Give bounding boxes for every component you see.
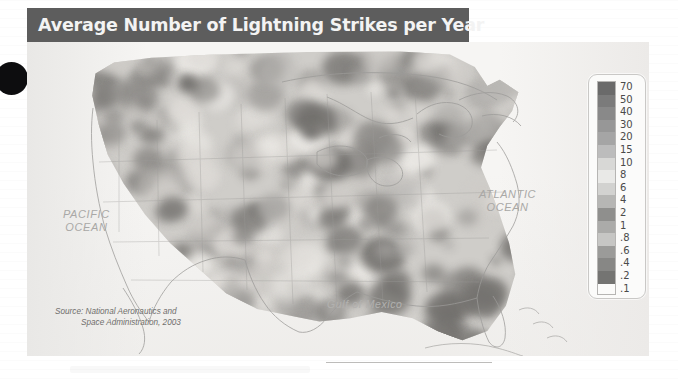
legend-tick-label: .8 <box>620 232 633 245</box>
source-line-2: Space Administration, 2003 <box>55 317 181 328</box>
legend-swatch <box>598 95 615 108</box>
pacific-label-line2: OCEAN <box>63 221 110 234</box>
legend-tick-label: .6 <box>620 245 633 258</box>
legend-swatch <box>598 183 615 196</box>
gulf-of-mexico-label: Gulf of Mexico <box>327 298 403 311</box>
legend-tick-label: 50 <box>620 94 633 107</box>
legend-color-ramp <box>597 81 616 295</box>
legend-tick-label: .4 <box>620 257 633 270</box>
legend-swatch <box>598 170 615 183</box>
legend-swatch <box>598 208 615 221</box>
source-line-1: Source: National Aeronautics and <box>55 307 177 316</box>
atlantic-label-line2: OCEAN <box>479 201 536 214</box>
legend-swatch <box>598 271 615 284</box>
legend-tick-labels: 7050403020151086421.8.6.4.2.1 <box>620 81 633 295</box>
legend-swatch <box>598 258 615 271</box>
legend-swatch <box>598 233 615 246</box>
legend-tick-label: .2 <box>620 270 633 283</box>
legend-tick-label: 20 <box>620 131 633 144</box>
legend-tick-label: 2 <box>620 207 633 220</box>
legend-swatch <box>598 107 615 120</box>
legend-swatch <box>598 246 615 259</box>
legend-swatch <box>598 120 615 133</box>
legend-tick-label: 4 <box>620 194 633 207</box>
atlantic-ocean-label: ATLANTIC OCEAN <box>479 188 536 214</box>
legend-tick-label: 70 <box>620 81 633 94</box>
legend-tick-label: 30 <box>620 119 633 132</box>
ghost-text-line <box>70 366 310 373</box>
map-canvas[interactable]: PACIFIC OCEAN ATLANTIC OCEAN Gulf of Mex… <box>27 42 649 356</box>
legend-swatch <box>598 195 615 208</box>
legend-swatch <box>598 145 615 158</box>
legend-swatch <box>598 221 615 234</box>
atlantic-label-line1: ATLANTIC <box>479 188 536 201</box>
legend-inner: 7050403020151086421.8.6.4.2.1 <box>597 81 633 295</box>
legend-tick-label: 10 <box>620 157 633 170</box>
legend-swatch <box>598 82 615 95</box>
legend-tick-label: 15 <box>620 144 633 157</box>
page-title: Average Number of Lightning Strikes per … <box>27 15 484 35</box>
legend-panel[interactable]: 7050403020151086421.8.6.4.2.1 <box>588 74 646 299</box>
figure-title-banner: Average Number of Lightning Strikes per … <box>27 8 469 42</box>
scan-ghost-frame <box>326 362 492 381</box>
pacific-ocean-label: PACIFIC OCEAN <box>63 208 110 234</box>
legend-tick-label: 40 <box>620 106 633 119</box>
legend-tick-label: 1 <box>620 220 633 233</box>
legend-swatch <box>598 158 615 171</box>
map-figure: Average Number of Lightning Strikes per … <box>27 8 649 356</box>
source-credit: Source: National Aeronautics and Space A… <box>55 306 181 328</box>
page-hole-punch-dot <box>0 62 28 95</box>
legend-tick-label: .1 <box>620 283 633 296</box>
page-root: Average Number of Lightning Strikes per … <box>0 0 678 381</box>
legend-swatch <box>598 132 615 145</box>
pacific-label-line1: PACIFIC <box>63 208 110 221</box>
legend-tick-label: 6 <box>620 182 633 195</box>
legend-tick-label: 8 <box>620 169 633 182</box>
